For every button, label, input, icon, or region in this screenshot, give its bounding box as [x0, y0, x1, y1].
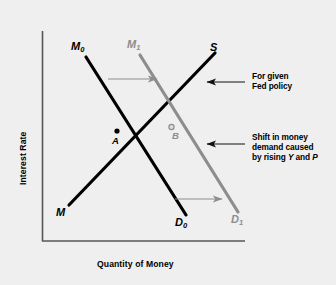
- curve-label-m1-sub: 1: [136, 43, 140, 52]
- annotation-shift-var-p: P: [312, 152, 317, 162]
- point-label-b: B: [172, 130, 179, 141]
- curve-label-m: M: [56, 206, 65, 219]
- curve-label-d0-base: D: [175, 216, 183, 228]
- curve-label-m0-sub: 0: [80, 45, 84, 54]
- equilibrium-point-a-marker: [114, 128, 119, 133]
- annotation-shift-line3-pre: by rising: [252, 152, 288, 162]
- curve-label-d1: D1: [231, 213, 243, 226]
- curve-label-m1-base: M: [127, 38, 136, 50]
- curve-label-m0: M0: [71, 40, 84, 53]
- curve-label-d1-base: D: [231, 213, 239, 225]
- money-market-diagram: Interest Rate Quantity of Money M0 M1 S …: [0, 0, 336, 285]
- curve-label-m0-base: M: [71, 40, 80, 52]
- annotation-shift-line3: by rising Y and P: [252, 153, 318, 163]
- annotation-shift: Shift in money demand caused by rising Y…: [252, 133, 318, 162]
- money-supply-curve: [69, 53, 215, 205]
- annotation-shift-line3-mid: and: [293, 152, 312, 162]
- curve-label-s: S: [210, 41, 217, 54]
- curve-label-d1-sub: 1: [239, 218, 243, 227]
- y-axis-title: Interest Rate: [18, 132, 28, 185]
- annotation-fed-policy: For given Fed policy: [252, 72, 292, 92]
- curve-label-d0-sub: 0: [183, 221, 187, 230]
- x-axis-title: Quantity of Money: [97, 259, 174, 269]
- equilibrium-point-b-marker: [169, 124, 174, 129]
- money-demand-curve-initial: [86, 57, 186, 215]
- annotation-fed-policy-line2: Fed policy: [252, 82, 292, 92]
- curve-label-m1: M1: [127, 38, 140, 51]
- curve-label-d0: D0: [175, 216, 187, 229]
- point-label-a: A: [112, 135, 119, 146]
